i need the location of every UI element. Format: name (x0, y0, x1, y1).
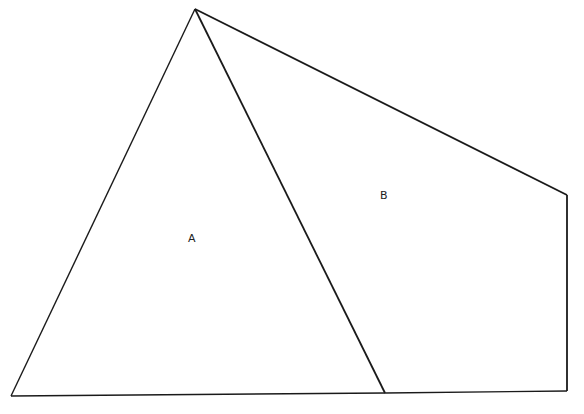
shape-a-triangle (11, 9, 385, 396)
edge-bottom-left-bottom-middle (11, 393, 385, 396)
edge-apex-bottom-middle (195, 9, 385, 393)
geometry-diagram (0, 0, 584, 414)
edge-apex-right-top (195, 9, 567, 195)
region-label-a: A (188, 232, 196, 245)
edge-bottom-middle-bottom-right (385, 391, 567, 393)
region-label-b: B (380, 189, 388, 202)
edge-apex-bottom-left (11, 9, 195, 396)
